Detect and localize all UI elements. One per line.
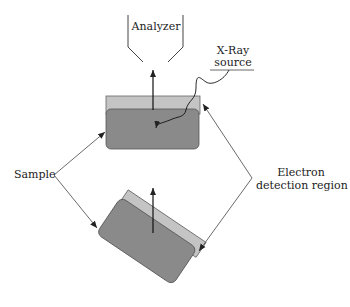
sample-tilted xyxy=(96,189,206,287)
sample-flat xyxy=(106,70,229,149)
xray-source-label-line2: source xyxy=(208,56,258,69)
sample-label: Sample xyxy=(14,168,56,181)
xps-diagram: Analyzer X-Ray source Sample Electron de… xyxy=(0,0,350,307)
diagram-graphics xyxy=(0,0,350,307)
analyzer-label: Analyzer xyxy=(128,20,184,33)
electron-detection-label-line1: Electron xyxy=(256,166,346,179)
sample-pointers xyxy=(54,132,105,228)
detection-pointers xyxy=(199,104,252,251)
electron-detection-label-line2: detection region xyxy=(256,179,346,192)
